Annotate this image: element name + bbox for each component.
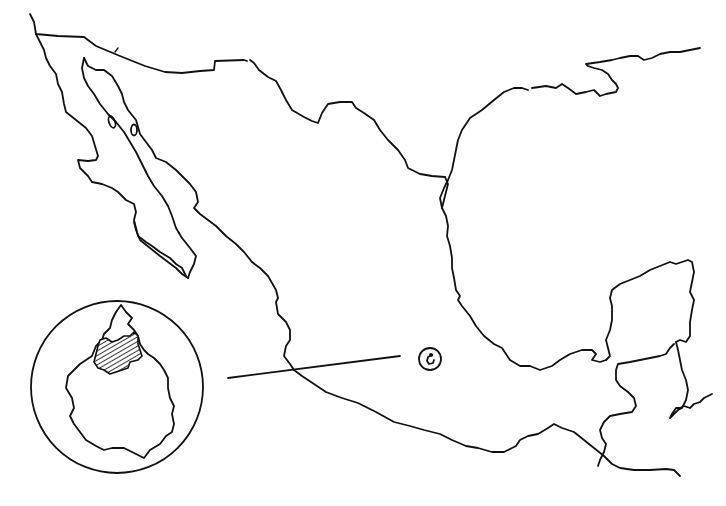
gulf-island-2	[131, 125, 137, 136]
belize-coast	[670, 342, 712, 418]
map-canvas	[0, 0, 726, 506]
border-tick-mark	[115, 48, 118, 52]
highlighted-district-hatched	[94, 332, 142, 374]
baja-peninsula-pacific-coast	[134, 222, 188, 278]
gulf-island-1	[107, 115, 117, 128]
southern-pacific-coast	[294, 370, 680, 476]
map-of-mexico	[0, 0, 726, 506]
baja-peninsula-gulf-coast	[82, 58, 196, 278]
inset-mexico-city-detail	[31, 301, 203, 473]
guatemala-border	[598, 344, 674, 466]
marker-outer-ring	[419, 348, 441, 370]
inset-leader-line	[228, 356, 400, 378]
texas-gulf-coast	[440, 48, 700, 208]
us-border-line	[30, 14, 445, 177]
mexico-city-marker	[419, 348, 441, 370]
yucatan-peninsula-coast	[606, 260, 694, 360]
marker-dot	[429, 353, 433, 357]
federal-district-outline	[66, 305, 174, 458]
mainland-pacific-coast	[36, 34, 186, 276]
gulf-of-california-east-coast	[84, 58, 294, 370]
gulf-of-mexico-coast	[442, 177, 606, 370]
